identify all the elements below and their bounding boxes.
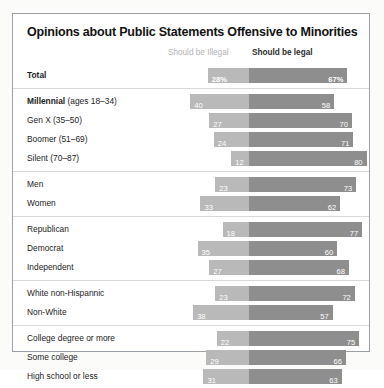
bar-segment-illegal: 23 (215, 286, 249, 301)
bar-segment-legal: 62 (249, 196, 340, 211)
bar-segment-illegal: 31 (203, 369, 249, 384)
bar-value-legal: 67% (324, 72, 347, 87)
bar-wrap: 2471 (13, 132, 369, 147)
chart-card: Opinions about Public Statements Offensi… (12, 13, 370, 352)
chart-rows: Total28%67%Millennial (ages 18–34)4058Ge… (13, 66, 369, 386)
bar-segment-illegal: 22 (217, 331, 249, 346)
bar-segment-illegal: 28% (208, 68, 249, 83)
bar-segment-legal: 73 (249, 177, 356, 192)
bar-wrap: 2770 (13, 113, 369, 128)
bar-segment-legal: 77 (249, 222, 362, 237)
bar-segment-legal: 58 (249, 94, 334, 109)
bar-segment-legal: 57 (249, 305, 333, 320)
chart-group: Millennial (ages 18–34)4058Gen X (35–50)… (13, 88, 369, 168)
bar-segment-legal: 63 (249, 369, 342, 384)
chart-row: Republican1877 (13, 220, 369, 239)
bar-value-illegal: 33 (200, 200, 216, 215)
bar-segment-legal: 60 (249, 241, 337, 256)
bar-wrap: 3163 (13, 369, 369, 384)
chart-row: Non-White3857 (13, 303, 369, 322)
bar-segment-illegal: 29 (206, 350, 249, 365)
bar-segment-legal: 75 (249, 331, 359, 346)
bar-segment-legal: 67% (249, 68, 347, 83)
bar-wrap: 4058 (13, 94, 369, 109)
chart-group: Total28%67% (13, 66, 369, 85)
bar-segment-illegal: 27 (209, 260, 249, 275)
bar-wrap: 3560 (13, 241, 369, 256)
legend-label-should-be-legal: Should be legal (252, 48, 313, 57)
bar-wrap: 3857 (13, 305, 369, 320)
bar-wrap: 28%67% (13, 68, 369, 83)
chart-row: Total28%67% (13, 66, 369, 85)
chart-row: Silent (70–87)1280 (13, 149, 369, 168)
chart-row: Gen X (35–50)2770 (13, 111, 369, 130)
bar-segment-legal: 70 (249, 113, 352, 128)
bar-segment-illegal: 24 (214, 132, 249, 147)
chart-group: Men2373Women3362 (13, 171, 369, 213)
bar-segment-illegal: 33 (200, 196, 249, 211)
chart-row: Millennial (ages 18–34)4058 (13, 92, 369, 111)
bar-wrap: 1280 (13, 151, 369, 166)
bar-segment-legal: 72 (249, 286, 355, 301)
bar-segment-legal: 71 (249, 132, 353, 147)
chart-row: White non-Hispannic2372 (13, 284, 369, 303)
chart-row: Boomer (51–69)2471 (13, 130, 369, 149)
chart-row: Independent2768 (13, 258, 369, 277)
bar-value-legal: 80 (350, 155, 366, 170)
bar-value-illegal: 28% (208, 72, 231, 87)
chart-row: College degree or more2275 (13, 329, 369, 348)
bar-value-illegal: 31 (203, 373, 219, 388)
bar-value-illegal: 27 (209, 264, 225, 279)
chart-row: Men2373 (13, 175, 369, 194)
bar-wrap: 2275 (13, 331, 369, 346)
chart-row: Democrat3560 (13, 239, 369, 258)
bar-segment-illegal: 23 (215, 177, 249, 192)
page-title: Opinions about Public Statements Offensi… (13, 14, 369, 39)
bar-wrap: 3362 (13, 196, 369, 211)
chart-group: White non-Hispannic2372Non-White3857 (13, 280, 369, 322)
bar-value-illegal: 12 (231, 155, 247, 170)
bar-segment-illegal: 27 (209, 113, 249, 128)
bar-segment-illegal: 40 (190, 94, 249, 109)
bar-value-legal: 62 (324, 200, 340, 215)
bar-segment-illegal: 35 (198, 241, 249, 256)
bar-value-legal: 68 (333, 264, 349, 279)
bar-value-illegal: 38 (193, 309, 209, 324)
legend-label-should-be-illegal: Should be Illegal (168, 48, 229, 57)
bar-segment-illegal: 18 (223, 222, 249, 237)
bar-segment-legal: 66 (249, 350, 346, 365)
bar-wrap: 1877 (13, 222, 369, 237)
bar-wrap: 2768 (13, 260, 369, 275)
bar-value-legal: 63 (325, 373, 341, 388)
bar-segment-illegal: 38 (193, 305, 249, 320)
chart-row: Women3362 (13, 194, 369, 213)
bar-segment-illegal: 12 (231, 151, 249, 166)
chart-group: College degree or more2275Some college29… (13, 325, 369, 386)
chart-legend: Should be Illegal Should be legal (13, 48, 369, 66)
bar-segment-legal: 80 (249, 151, 367, 166)
bar-wrap: 2966 (13, 350, 369, 365)
bar-wrap: 2373 (13, 177, 369, 192)
chart-row: High school or less3163 (13, 367, 369, 386)
chart-row: Some college2966 (13, 348, 369, 367)
chart-group: Republican1877Democrat3560Independent276… (13, 216, 369, 277)
bar-wrap: 2372 (13, 286, 369, 301)
bar-value-legal: 57 (316, 309, 332, 324)
bar-segment-legal: 68 (249, 260, 349, 275)
